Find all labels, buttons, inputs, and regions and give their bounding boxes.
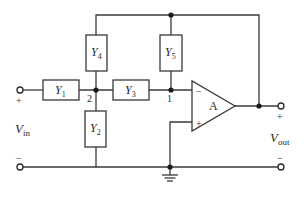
- ground-junction-dot: [167, 164, 172, 169]
- circuit-diagram: Y1 Y3 Y4 Y5 Y2 − + A 2 1 + − Vin + − Vou…: [0, 0, 304, 197]
- node-1-dot: [168, 87, 173, 92]
- component-y2: Y2: [85, 111, 106, 147]
- node-2-label: 2: [87, 93, 92, 104]
- output-junction-dot: [256, 103, 261, 108]
- output-minus-terminal: [278, 164, 284, 170]
- output-plus-sign: +: [277, 111, 283, 122]
- opamp-plus-sign: +: [196, 118, 202, 129]
- input-plus-terminal: [17, 87, 23, 93]
- vin-label: Vin: [15, 121, 30, 138]
- node-1-label: 1: [167, 93, 172, 104]
- opamp-label: A: [209, 99, 218, 113]
- output-plus-terminal: [278, 103, 284, 109]
- input-plus-sign: +: [16, 95, 22, 106]
- input-minus-sign: −: [16, 153, 22, 164]
- plus-input-wire: [170, 122, 192, 167]
- opamp-minus-sign: −: [196, 86, 202, 97]
- opamp: − + A: [192, 81, 235, 131]
- node-2-dot: [93, 87, 98, 92]
- top-junction-dot: [168, 12, 173, 17]
- circuit-svg: Y1 Y3 Y4 Y5 Y2 − + A 2 1 + − Vin + − Vou…: [0, 0, 304, 197]
- vout-label: Vout: [270, 130, 290, 147]
- component-y4: Y4: [86, 35, 107, 71]
- component-y3: Y3: [113, 80, 149, 100]
- component-y5: Y5: [160, 35, 182, 71]
- input-minus-terminal: [17, 164, 23, 170]
- component-y1: Y1: [43, 80, 79, 100]
- output-minus-sign: −: [277, 153, 283, 164]
